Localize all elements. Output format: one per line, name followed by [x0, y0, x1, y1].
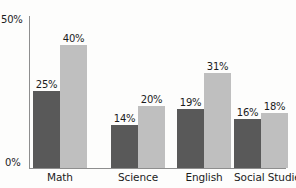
- bar-value-label: 14%: [114, 113, 135, 124]
- x-axis-label-english: English: [177, 171, 231, 183]
- bar-chart: 50% 0% 25%40%14%20%19%31%16%18% MathScie…: [0, 0, 296, 188]
- bar-value-label: 25%: [36, 79, 57, 90]
- bar: 19%: [177, 109, 204, 168]
- bar-value-label: 19%: [180, 97, 201, 108]
- bar-value-label: 20%: [141, 94, 162, 105]
- bar: 31%: [204, 73, 231, 168]
- plot-area: 25%40%14%20%19%31%16%18%: [30, 14, 286, 168]
- bar: 25%: [33, 91, 60, 168]
- bar: 18%: [261, 113, 288, 168]
- x-axis-label-math: Math: [33, 171, 87, 183]
- bar-value-label: 31%: [207, 61, 228, 72]
- x-axis-label-social-studies: Social Studies: [234, 171, 288, 183]
- bar-value-label: 16%: [237, 107, 258, 118]
- bar-group: 16%18%: [234, 14, 288, 168]
- y-axis-tick-0: 0%: [5, 157, 20, 168]
- x-axis-label-science: Science: [111, 171, 165, 183]
- bar: 20%: [138, 106, 165, 168]
- y-axis-tick-50: 50%: [1, 14, 23, 25]
- x-axis-line: [29, 168, 286, 169]
- bar: 40%: [60, 45, 87, 168]
- bar-value-label: 18%: [264, 101, 285, 112]
- bar: 14%: [111, 125, 138, 168]
- bar-group: 14%20%: [111, 14, 165, 168]
- bar-group: 25%40%: [33, 14, 87, 168]
- bar-group: 19%31%: [177, 14, 231, 168]
- bar-value-label: 40%: [63, 33, 84, 44]
- bar: 16%: [234, 119, 261, 168]
